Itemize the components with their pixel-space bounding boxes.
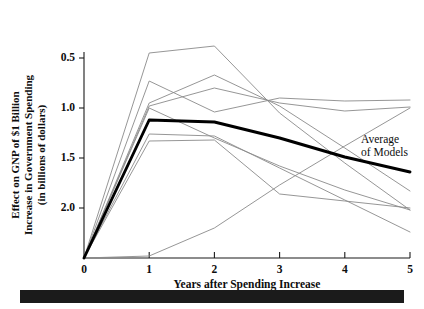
x-tick-label-5: 5	[407, 263, 413, 275]
y-axis-ticks	[79, 58, 84, 208]
y-tick-label-1.5: 1.0	[61, 101, 76, 113]
y-tick-label-2: 0.5	[61, 51, 76, 63]
x-tick-label-4: 4	[342, 263, 348, 275]
average-of-models-annotation: Average of Models	[361, 133, 408, 158]
average-label-line2: of Models	[361, 146, 408, 158]
x-tick-labels: 012345	[81, 263, 413, 275]
x-tick-label-0: 0	[81, 263, 87, 275]
y-axis-title: Effect on GNP of $1 Billion Increase in …	[9, 74, 48, 235]
y-tick-labels: 2.01.51.00.5	[61, 51, 76, 213]
bottom-black-bar	[20, 290, 404, 303]
x-tick-label-2: 2	[212, 263, 218, 275]
x-axis-ticks	[149, 252, 410, 258]
y-axis-title-line2: Increase in Government Spending	[22, 74, 34, 235]
model-line	[84, 88, 410, 258]
x-tick-label-3: 3	[277, 263, 283, 275]
average-label-line1: Average	[361, 133, 399, 146]
line-chart: 2.01.51.00.5 012345 Effect on GNP of $1 …	[0, 0, 424, 309]
y-axis-title-line1: Effect on GNP of $1 Billion	[9, 91, 21, 218]
y-tick-label-0.5: 2.0	[61, 201, 76, 213]
x-tick-label-1: 1	[146, 263, 152, 275]
figure-container: 2.01.51.00.5 012345 Effect on GNP of $1 …	[0, 0, 424, 309]
y-axis-title-line3: (in billions of dollars)	[35, 104, 48, 205]
y-tick-label-1: 1.5	[61, 151, 76, 163]
